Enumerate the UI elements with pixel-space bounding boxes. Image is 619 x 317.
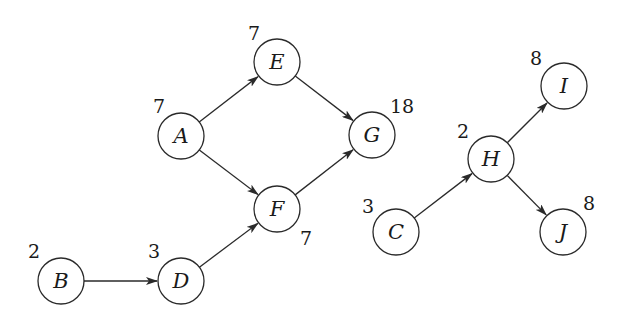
- node-i: I8: [530, 47, 587, 109]
- node-label: I: [559, 74, 569, 98]
- edge-h-i: [507, 103, 547, 143]
- edge-e-g: [295, 76, 353, 120]
- node-b: B2: [28, 240, 84, 304]
- node-weight-label: 7: [153, 95, 165, 117]
- node-weight-label: 2: [28, 240, 40, 262]
- node-weight-label: 18: [390, 95, 414, 117]
- node-g: G18: [349, 95, 414, 158]
- edge-a-f: [199, 150, 258, 195]
- node-weight-label: 3: [362, 195, 374, 217]
- node-weight-label: 7: [248, 22, 260, 44]
- edge-d-f: [199, 223, 257, 267]
- node-e: E7: [248, 22, 300, 85]
- node-label: A: [171, 124, 188, 148]
- node-label: C: [388, 220, 404, 244]
- node-label: H: [481, 147, 501, 171]
- node-label: G: [364, 123, 381, 147]
- edge-c-h: [414, 174, 472, 218]
- node-weight-label: 8: [530, 47, 542, 69]
- nodes-layer: A7E7G18F7B2D3C3H2I8J8: [28, 22, 595, 304]
- graph-canvas: A7E7G18F7B2D3C3H2I8J8: [0, 0, 619, 317]
- edge-f-g: [295, 150, 353, 195]
- node-weight-label: 8: [583, 192, 595, 214]
- node-weight-label: 3: [148, 240, 160, 262]
- node-label: F: [269, 197, 286, 221]
- node-weight-label: 7: [300, 227, 312, 249]
- node-h: H2: [457, 120, 514, 182]
- node-f: F7: [254, 186, 312, 249]
- node-label: E: [268, 50, 284, 74]
- node-label: D: [172, 269, 190, 293]
- node-d: D3: [148, 240, 204, 304]
- edge-a-e: [199, 77, 258, 122]
- node-j: J8: [540, 192, 595, 255]
- edge-h-j: [507, 175, 546, 215]
- node-c: C3: [362, 195, 419, 255]
- node-weight-label: 2: [457, 120, 469, 142]
- node-a: A7: [153, 95, 204, 159]
- node-label: B: [52, 269, 68, 293]
